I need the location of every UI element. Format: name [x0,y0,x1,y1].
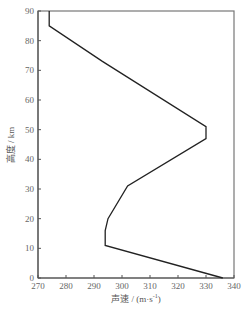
x-tick-label: 290 [87,281,101,291]
y-tick-label: 70 [25,65,35,75]
plot-frame [38,11,234,278]
y-tick-label: 10 [25,243,35,253]
x-tick-label: 320 [171,281,185,291]
y-tick-label: 0 [30,273,35,283]
y-tick-label: 40 [25,154,35,164]
profile-polyline [49,11,223,278]
y-tick-label: 20 [25,214,35,224]
y-tick-label: 30 [25,184,35,194]
x-tick-label: 340 [227,281,241,291]
sound-speed-chart: 270280290300310320330340 010203040506070… [0,0,248,313]
profile-line [49,11,223,278]
x-tick-label: 310 [143,281,157,291]
y-tick-label: 60 [25,95,35,105]
x-tick-label: 330 [199,281,213,291]
y-tick-label: 80 [25,36,35,46]
y-axis-title: 高度 / km [5,127,16,164]
y-tick-label: 50 [25,125,35,135]
x-axis-title: 声速 / (m·s-1) [111,293,161,304]
x-tick-label: 300 [115,281,129,291]
y-tick-label: 90 [25,6,35,16]
x-tick-label: 280 [59,281,73,291]
